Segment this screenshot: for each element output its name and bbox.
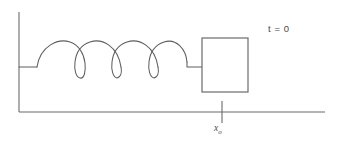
physics-figure: t = 0 xo [0,0,340,142]
time-label: t = 0 [268,24,290,34]
figure-canvas [0,0,340,142]
position-label: xo [214,124,222,136]
spring-coil-3 [149,41,187,78]
spring-coil-2 [112,41,158,78]
position-subscript: o [218,128,222,136]
mass-block [202,38,248,92]
spring-coil-1 [37,41,121,78]
spring-lead-out [187,62,202,67]
